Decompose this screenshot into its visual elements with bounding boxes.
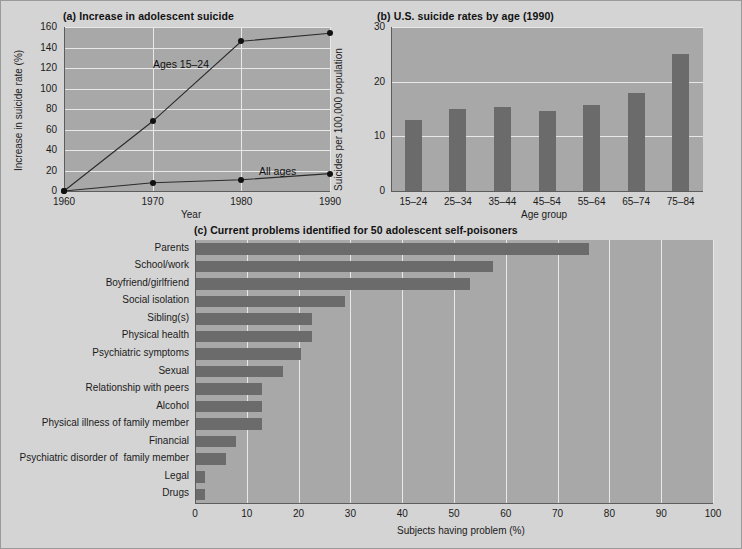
panel-a-data-point-s0	[150, 118, 156, 124]
panel-c-bar	[195, 348, 301, 360]
panel-c-category-label: Sexual	[1, 365, 189, 376]
panel-c-category-label: Alcohol	[1, 400, 189, 411]
panel-a-ytick: 80	[31, 103, 57, 114]
panel-b-xtick: 45–54	[522, 196, 572, 207]
panel-b-xtick: 75–84	[656, 196, 706, 207]
panel-c-bar	[195, 471, 205, 483]
panel-a-series-label-ages-15-24: Ages 15–24	[153, 58, 209, 70]
panel-a-xtick: 1980	[223, 196, 259, 207]
panel-c-category-label: Social isolation	[1, 294, 189, 305]
panel-a-ytick: 60	[31, 124, 57, 135]
panel-c-category-label: Sibling(s)	[1, 312, 189, 323]
panel-b-ytick: 20	[357, 76, 385, 87]
panel-a-ytick: 40	[31, 144, 57, 155]
panel-c-category-label: Physical health	[1, 329, 189, 340]
panel-c-x-axis	[195, 503, 713, 504]
panel-b-plot-area	[391, 27, 703, 191]
panel-c-bar	[195, 296, 345, 308]
panel-c-category-label: Drugs	[1, 487, 189, 498]
panel-b-ylabel: Suicides per 100,000 population	[333, 48, 344, 191]
panel-c-xtick: 90	[641, 508, 681, 519]
panel-a-data-point-s1	[150, 180, 156, 186]
panel-c-xtick: 0	[175, 508, 215, 519]
panel-a-ytick: 120	[31, 62, 57, 73]
panel-b-x-axis	[391, 191, 703, 192]
panel-c-xtick: 50	[434, 508, 474, 519]
panel-c-xtick: 70	[538, 508, 578, 519]
panel-c-bar	[195, 401, 262, 413]
panel-c-xtick: 40	[382, 508, 422, 519]
panel-b-xtick: 35–44	[477, 196, 527, 207]
panel-b-ytick: 10	[357, 130, 385, 141]
panel-a-data-point-s1	[61, 188, 67, 194]
panel-b-bar	[628, 93, 645, 191]
panel-a-ylabel: Increase in suicide rate (%)	[13, 50, 24, 171]
panel-a-ytick: 140	[31, 42, 57, 53]
panel-b-xtick: 25–34	[433, 196, 483, 207]
panel-a-xtick: 1990	[312, 196, 348, 207]
panel-b-ytick: 0	[357, 185, 385, 196]
panel-b-bar-chart: (b) U.S. suicide rates by age (1990) Sui…	[361, 1, 742, 223]
panel-c-xtick: 80	[589, 508, 629, 519]
panel-b-bar	[539, 111, 556, 191]
panel-c-bar	[195, 261, 493, 273]
panel-a-series-label-all-ages: All ages	[259, 165, 296, 177]
panel-c-bar-chart: (c) Current problems identified for 50 a…	[1, 219, 742, 549]
panel-a-ytick: 100	[31, 83, 57, 94]
panel-a-xtick: 1960	[46, 196, 82, 207]
panel-c-bar	[195, 366, 283, 378]
panel-c-bar	[195, 489, 205, 501]
panel-c-category-label: Financial	[1, 435, 189, 446]
panel-b-bar	[494, 107, 511, 191]
panel-c-bar	[195, 453, 226, 465]
panel-b-title: (b) U.S. suicide rates by age (1990)	[377, 10, 554, 22]
panel-c-bar	[195, 243, 589, 255]
panel-c-bar	[195, 436, 236, 448]
panel-c-category-label: Relationship with peers	[1, 382, 189, 393]
panel-c-bar	[195, 383, 262, 395]
panel-c-category-label: Psychiatric symptoms	[1, 347, 189, 358]
panel-c-bar	[195, 418, 262, 430]
panel-b-bar	[405, 120, 422, 191]
panel-b-xtick: 55–64	[567, 196, 617, 207]
panel-b-y-axis	[391, 27, 392, 191]
panel-c-bar	[195, 313, 312, 325]
panel-c-category-label: School/work	[1, 259, 189, 270]
panel-c-gridline	[713, 240, 714, 503]
panel-b-ytick: 30	[357, 21, 385, 32]
panel-c-category-label: Psychiatric disorder of family member	[1, 452, 189, 463]
panel-a-title: (a) Increase in adolescent suicide	[63, 10, 234, 22]
panel-c-bar	[195, 331, 312, 343]
panel-c-xtick: 20	[279, 508, 319, 519]
panel-b-bar	[583, 105, 600, 191]
panel-c-category-label: Legal	[1, 470, 189, 481]
panel-a-ytick: 20	[31, 165, 57, 176]
panel-a-data-point-s1	[238, 177, 244, 183]
panel-c-plot-area	[195, 240, 713, 503]
panel-a-ytick: 0	[31, 185, 57, 196]
panel-c-gridline	[609, 240, 610, 503]
panel-a-xtick: 1970	[135, 196, 171, 207]
panel-b-xtick: 15–24	[388, 196, 438, 207]
panel-c-xtick: 100	[693, 508, 733, 519]
panel-b-gridline	[391, 82, 703, 83]
panel-c-category-label: Physical illness of family member	[1, 417, 189, 428]
panel-a-line-chart: (a) Increase in adolescent suicide Incre…	[1, 1, 361, 223]
panel-c-xtick: 30	[330, 508, 370, 519]
panel-c-xtick: 60	[486, 508, 526, 519]
panel-c-y-axis	[195, 240, 196, 503]
panel-c-xtick: 10	[227, 508, 267, 519]
panel-b-xtick: 65–74	[611, 196, 661, 207]
panel-c-gridline	[506, 240, 507, 503]
panel-c-title: (c) Current problems identified for 50 a…	[194, 224, 518, 236]
panel-c-gridline	[558, 240, 559, 503]
figure-container: (a) Increase in adolescent suicide Incre…	[0, 0, 742, 549]
panel-a-ytick: 160	[31, 21, 57, 32]
panel-c-category-label: Boyfriend/girlfriend	[1, 277, 189, 288]
panel-b-gridline	[391, 27, 703, 28]
panel-b-bar	[672, 54, 689, 191]
panel-b-bar	[449, 109, 466, 191]
panel-c-category-label: Parents	[1, 242, 189, 253]
panel-c-bar	[195, 278, 470, 290]
panel-c-xlabel: Subjects having problem (%)	[397, 525, 525, 536]
